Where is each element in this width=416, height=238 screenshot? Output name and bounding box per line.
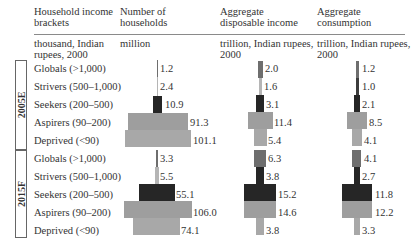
unit-income-line-1: trillion, Indian rupees, (220, 38, 313, 49)
row-label-deprived-2005e: Deprived (<90) (34, 135, 99, 147)
unit-households-line-1: million (120, 38, 150, 49)
value-con-aspirers-2005e: 8.5 (369, 117, 382, 129)
header-consumption-title-2: consumption (317, 17, 371, 28)
bar-hh-deprived-2005e (125, 130, 191, 147)
bar-hh-strivers-2015f (155, 167, 159, 184)
bar-hh-strivers-2005e (157, 77, 158, 96)
row-label-globals-2015f: Globals (>1,000) (34, 153, 106, 165)
bar-hh-deprived-2015f (133, 218, 180, 235)
value-con-deprived-2015f: 3.3 (362, 225, 375, 237)
bar-con-seekers-2015f (342, 184, 372, 201)
bar-inc-strivers-2015f (256, 167, 264, 184)
unit-income-line-2: 2000 (220, 49, 313, 60)
value-con-strivers-2005e: 1.0 (362, 81, 375, 93)
bar-inc-aspirers-2015f (244, 201, 276, 218)
bar-inc-globals-2015f (254, 150, 266, 167)
period-box-2015f: 2015F (15, 150, 27, 238)
bar-inc-globals-2005e (258, 61, 263, 78)
value-inc-aspirers-2015f: 14.6 (278, 207, 296, 219)
value-inc-deprived-2005e: 5.4 (268, 135, 281, 147)
unit-income: trillion, Indian rupees, 2000 (220, 38, 313, 60)
header-income-title-2: disposable income (220, 17, 298, 28)
header-bracket: Household income brackets (34, 6, 113, 28)
unit-bracket-line-1: thousand, Indian (34, 38, 104, 49)
bar-inc-seekers-2005e (256, 95, 264, 112)
value-inc-strivers-2005e: 1.6 (264, 81, 277, 93)
bar-con-deprived-2015f (354, 218, 360, 235)
header-bracket-title-2: brackets (34, 17, 113, 28)
value-hh-seekers-2005e: 10.9 (165, 99, 183, 111)
value-hh-globals-2015f: 3.3 (160, 153, 173, 165)
row-label-strivers-2015f: Strivers (500–1,000) (34, 171, 121, 183)
bar-hh-seekers-2015f (139, 184, 175, 201)
value-inc-strivers-2015f: 3.8 (266, 171, 279, 183)
value-hh-deprived-2015f: 74.1 (181, 225, 199, 237)
unit-bracket-line-2: rupees, 2000 (34, 49, 104, 60)
value-inc-globals-2015f: 6.3 (268, 153, 281, 165)
header-income-title-1: Aggregate (220, 6, 298, 17)
value-con-globals-2005e: 1.2 (362, 63, 375, 75)
header-consumption-title-1: Aggregate (317, 6, 371, 17)
bar-hh-globals-2015f (156, 150, 158, 167)
bar-con-seekers-2005e (354, 95, 360, 112)
unit-consumption: trillion, Indian rupees, 2000 (317, 38, 410, 60)
value-hh-deprived-2005e: 101.1 (193, 135, 217, 147)
row-label-deprived-2015f: Deprived (<90) (34, 225, 99, 237)
unit-consumption-line-2: 2000 (317, 49, 410, 60)
value-con-seekers-2015f: 11.8 (375, 189, 393, 201)
bar-inc-deprived-2005e (254, 129, 267, 146)
header-consumption: Aggregate consumption (317, 6, 371, 28)
row-label-strivers-2005e: Strivers (500–1,000) (34, 81, 121, 93)
row-label-seekers-2015f: Seekers (200–500) (34, 189, 113, 201)
value-inc-globals-2005e: 2.0 (265, 63, 278, 75)
value-inc-deprived-2015f: 3.8 (266, 225, 279, 237)
value-con-aspirers-2015f: 12.2 (375, 207, 393, 219)
header-households-title-1: Number of (120, 6, 167, 17)
bar-con-globals-2015f (352, 150, 361, 167)
bar-con-deprived-2005e (352, 129, 362, 146)
value-inc-seekers-2005e: 3.1 (266, 99, 279, 111)
value-hh-globals-2005e: 1.2 (160, 63, 173, 75)
bar-hh-aspirers-2005e (128, 113, 188, 130)
period-label-2005e: 2005E (16, 92, 27, 119)
bar-inc-aspirers-2005e (248, 112, 273, 129)
value-inc-seekers-2015f: 15.2 (278, 189, 296, 201)
header-divider (34, 34, 405, 35)
value-inc-aspirers-2005e: 11.4 (274, 117, 292, 129)
value-hh-aspirers-2015f: 106.0 (193, 207, 217, 219)
unit-consumption-line-1: trillion, Indian rupees, (317, 38, 410, 49)
value-con-globals-2015f: 4.1 (364, 153, 377, 165)
period-box-2005e: 2005E (15, 60, 27, 150)
bar-hh-aspirers-2015f (124, 201, 192, 218)
row-label-aspirers-2005e: Aspirers (90–200) (34, 117, 111, 129)
bar-con-strivers-2015f (354, 167, 360, 184)
value-hh-aspirers-2005e: 91.3 (190, 117, 208, 129)
header-bracket-title-1: Household income (34, 6, 113, 17)
bar-inc-deprived-2015f (256, 218, 264, 235)
bar-inc-strivers-2005e (259, 78, 262, 95)
value-hh-strivers-2015f: 5.5 (160, 171, 173, 183)
row-label-seekers-2005e: Seekers (200–500) (34, 99, 113, 111)
bar-con-strivers-2005e (356, 78, 359, 95)
period-label-2015f: 2015F (16, 181, 27, 207)
bar-con-globals-2005e (356, 61, 359, 78)
value-con-deprived-2005e: 4.1 (364, 135, 377, 147)
header-households-title-2: households (120, 17, 167, 28)
value-con-seekers-2005e: 2.1 (362, 99, 375, 111)
bar-con-aspirers-2005e (347, 112, 367, 129)
header-income: Aggregate disposable income (220, 6, 298, 28)
value-hh-strivers-2005e: 2.4 (160, 81, 173, 93)
row-label-aspirers-2015f: Aspirers (90–200) (34, 207, 111, 219)
bar-con-aspirers-2015f (342, 201, 372, 218)
bar-hh-seekers-2005e (153, 96, 162, 113)
value-hh-seekers-2015f: 55.1 (176, 189, 194, 201)
bar-hh-globals-2005e (157, 60, 158, 77)
value-con-strivers-2015f: 2.7 (362, 171, 375, 183)
unit-households: million (120, 38, 150, 49)
bar-inc-seekers-2015f (244, 184, 276, 201)
row-label-globals-2005e: Globals (>1,000) (34, 63, 106, 75)
header-households: Number of households (120, 6, 167, 28)
unit-bracket: thousand, Indian rupees, 2000 (34, 38, 104, 60)
